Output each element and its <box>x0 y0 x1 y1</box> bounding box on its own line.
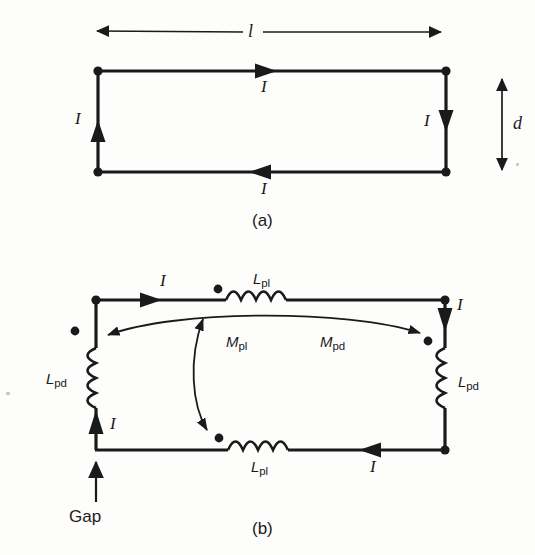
inductor-coil-right <box>437 348 446 408</box>
spacing-dimension-label: d <box>513 114 522 132</box>
mutual-label-pl-subscript: pl <box>239 340 248 352</box>
inductor-label-right-subscript: pd <box>466 380 478 392</box>
figure-root: l d I I I I (a) Lpl Lpl Lpd Lpd Mpl Mpd … <box>0 0 535 555</box>
current-arrowhead-right-b <box>438 308 453 332</box>
mutual-coupling-arrow-horizontal <box>108 316 420 335</box>
current-arrowhead-left <box>91 120 106 142</box>
current-arrowhead-left-b <box>89 410 104 434</box>
scan-speck <box>6 392 10 395</box>
current-arrowhead-bottom-b <box>359 443 381 458</box>
mutual-coupling-arrow-vertical <box>194 319 207 430</box>
inductor-label-top: Lpl <box>253 271 270 287</box>
inductor-label-bottom: Lpl <box>251 459 268 475</box>
mutual-label-pd-symbol: M <box>320 333 333 350</box>
current-label-right-b: I <box>457 296 463 313</box>
length-dimension-label: l <box>248 22 253 40</box>
polarity-dot-left <box>71 327 80 336</box>
current-arrowhead-top-b <box>140 293 162 308</box>
mutual-label-pd: Mpd <box>320 334 345 350</box>
circuit-node-top-left <box>91 295 100 304</box>
polarity-dot-top <box>214 285 223 294</box>
loop-node-bottom-left <box>93 167 102 176</box>
current-label-left-a: I <box>75 110 81 127</box>
inductor-label-top-subscript: pl <box>261 277 270 289</box>
loop-node-top-left <box>93 66 102 75</box>
inductor-coil-bottom <box>228 442 288 451</box>
circuit-node-bottom-right <box>440 445 449 454</box>
current-arrowhead-right <box>439 110 454 132</box>
length-dimension-arrow-left <box>97 31 243 32</box>
inductor-label-right: Lpd <box>458 374 479 390</box>
inductor-coil-top <box>226 292 286 301</box>
mutual-label-pl: Mpl <box>226 334 247 350</box>
current-label-bottom-b: I <box>370 458 376 475</box>
current-arrowhead-bottom <box>249 165 271 180</box>
mutual-label-pd-subscript: pd <box>333 340 345 352</box>
panel-b-caption: (b) <box>252 520 273 537</box>
panel-a-caption: (a) <box>252 212 273 229</box>
loop-node-bottom-right <box>441 167 450 176</box>
current-label-left-b: I <box>110 415 116 432</box>
panel-a-graphics <box>91 31 503 180</box>
circuit-node-top-right <box>440 295 449 304</box>
loop-node-top-right <box>441 66 450 75</box>
inductor-label-left-subscript: pd <box>54 377 66 389</box>
current-label-bottom-a: I <box>261 180 267 197</box>
polarity-dot-right <box>424 337 433 346</box>
inductor-label-left: Lpd <box>46 371 67 387</box>
polarity-dot-bottom <box>215 434 224 443</box>
gap-label: Gap <box>69 508 101 525</box>
current-label-right-a: I <box>424 112 430 129</box>
inductor-label-bottom-subscript: pl <box>259 465 268 477</box>
scan-speck <box>516 163 519 166</box>
inductor-coil-left <box>88 348 97 408</box>
current-label-top-b: I <box>160 272 166 289</box>
mutual-label-pl-symbol: M <box>226 333 239 350</box>
current-label-top-a: I <box>261 78 267 95</box>
